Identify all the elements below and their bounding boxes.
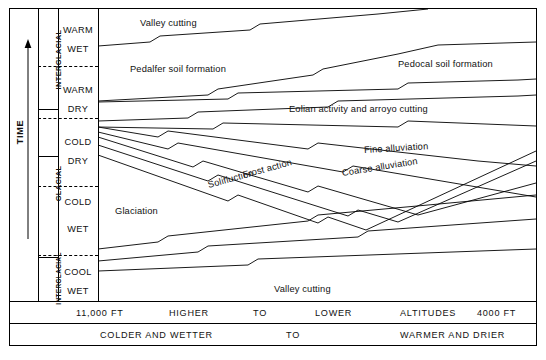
boundary-lines	[98, 9, 536, 301]
label-pedocal-soil: Pedocal soil formation	[398, 59, 493, 69]
climate-divider-dashed-2	[38, 118, 98, 119]
boundary-valley-cutting-lower2	[98, 249, 536, 271]
altitude-tick-altitudes: ALTITUDES	[400, 308, 456, 318]
climate-cell-cold-wet-line2: WET	[58, 224, 98, 234]
up-arrow-icon	[23, 39, 33, 239]
climate-cell-warm-dry-line2: DRY	[58, 104, 98, 114]
boundary-coarse-upper	[98, 137, 536, 215]
climate-divider-dashed-4	[38, 255, 98, 256]
label-eolian-activity: Eolian activity and arroyo cutting	[289, 104, 428, 114]
altitude-tick-lower: LOWER	[315, 308, 352, 318]
climate-cell-cool-wet-line2: WET	[58, 286, 98, 296]
climate-divider-dashed-3	[38, 186, 98, 187]
boundary-valley-cutting-upper2	[98, 219, 536, 261]
diagram-plot-area	[98, 9, 536, 301]
time-axis-column: TIME	[10, 9, 38, 301]
altitude-axis-band: 11,000 FT HIGHER TO LOWER ALTITUDES 4000…	[9, 301, 537, 323]
label-valley-cutting-bottom: Valley cutting	[274, 284, 331, 294]
boundary-fine-alluviation-lower	[98, 132, 536, 197]
climatic-geomorphic-figure: TIME INTERGLACIAL GLACIAL INTERGLACIAL W…	[0, 0, 546, 360]
climate-cell-warm-dry-line1: WARM	[58, 85, 98, 95]
altitude-tick-higher: HIGHER	[169, 308, 209, 318]
stage-divider-tick-3	[38, 257, 58, 258]
climate-tick-colder-wetter: COLDER AND WETTER	[100, 330, 213, 340]
climate-cell-warm-wet-line1: WARM	[58, 25, 98, 35]
climate-cell-warm-wet-line2: WET	[58, 44, 98, 54]
label-pedalfer-soil: Pedalfer soil formation	[130, 64, 226, 74]
altitude-tick-to: TO	[253, 308, 267, 318]
climate-divider-dashed-1	[38, 66, 98, 67]
climate-axis-band: COLDER AND WETTER TO WARMER AND DRIER	[9, 323, 537, 346]
altitude-tick-4000ft: 4000 FT	[477, 308, 516, 318]
climate-tick-warmer-drier: WARMER AND DRIER	[400, 330, 505, 340]
label-valley-cutting-top: Valley cutting	[140, 18, 197, 28]
stage-label-glacial: GLACIAL	[54, 134, 63, 234]
climate-cell-cold-dry-line2: DRY	[58, 156, 98, 166]
boundary-eolian-lower	[98, 121, 536, 129]
label-glaciation: Glaciation	[115, 206, 158, 216]
climate-cell-cool-wet-line1: COOL	[58, 267, 98, 277]
climate-tick-to: TO	[286, 330, 300, 340]
climate-cell-cold-wet-line1: COLD	[58, 197, 98, 207]
boundary-frost-solifluction	[98, 145, 536, 222]
altitude-tick-11000ft: 11,000 FT	[76, 308, 124, 318]
climate-cell-cold-dry-line1: COLD	[58, 137, 98, 147]
boundary-fine-alluviation-upper	[98, 127, 536, 166]
boundary-pedalfer-lower	[98, 79, 536, 102]
stage-divider-tick-1	[38, 109, 58, 110]
stage-divider-tick-2	[38, 156, 58, 157]
boundary-glaciation-lower	[98, 195, 536, 249]
